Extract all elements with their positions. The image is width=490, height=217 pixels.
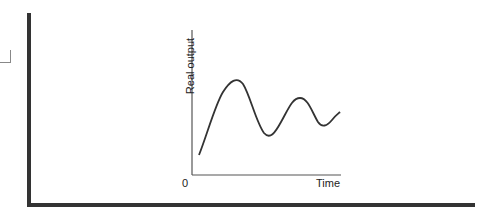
origin-label: 0 bbox=[182, 177, 188, 189]
output-curve bbox=[199, 80, 340, 155]
y-axis-label: Real output bbox=[184, 36, 196, 96]
x-axis-label: Time bbox=[316, 177, 340, 189]
line-chart bbox=[0, 0, 490, 217]
